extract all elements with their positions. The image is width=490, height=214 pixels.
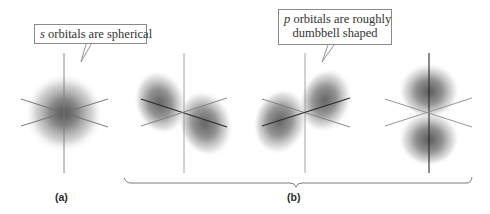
s-callout-pointer [81, 41, 93, 62]
p-orbital-1 [130, 53, 240, 173]
panel-label-a: (a) [55, 191, 68, 203]
s-orbital [21, 53, 108, 173]
p-callout-line2: dumbbell shaped [284, 26, 386, 40]
panel-b-brace [124, 177, 472, 187]
p-orbital-callout: p orbitals are roughly dumbbell shaped [278, 9, 392, 45]
s-callout-text: orbitals are spherical [45, 27, 152, 41]
p-callout-line1: p orbitals are roughly [284, 12, 386, 26]
p-callout-pointer [322, 45, 334, 62]
p-orbital-2 [249, 53, 359, 173]
s-orbital-callout: s orbitals are spherical [34, 24, 147, 44]
p-orbital-3 [385, 53, 472, 173]
orbital-diagram: s orbitals are spherical p orbitals are … [0, 0, 490, 214]
panel-label-b: (b) [287, 191, 300, 203]
